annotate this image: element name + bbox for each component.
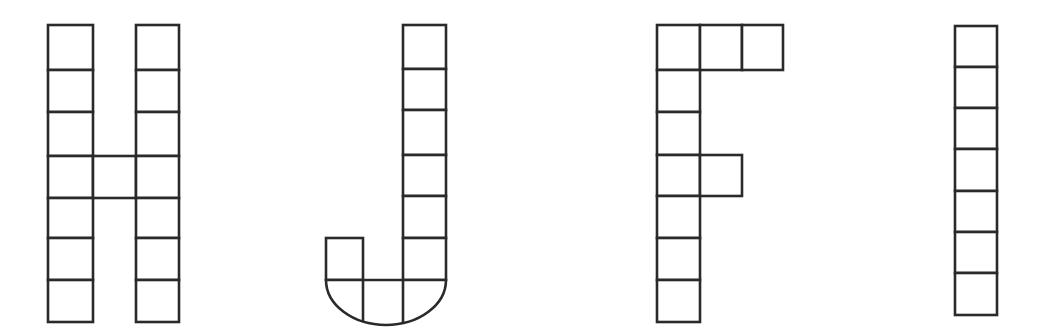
grid-cell: [700, 155, 742, 196]
grid-cell: [955, 191, 997, 232]
grid-cell: [136, 238, 179, 280]
grid-cell: [657, 196, 700, 238]
grid-cell: [955, 67, 997, 108]
grid-cell: [403, 110, 446, 155]
grid-cell: [955, 26, 997, 67]
grid-cell: [48, 25, 93, 70]
grid-cell: [48, 280, 93, 322]
grid-cell: [136, 25, 179, 70]
grid-cell: [48, 70, 93, 112]
letter-f-grid: [657, 25, 783, 322]
letter-h-grid: [48, 25, 179, 322]
grid-cell: [93, 156, 136, 198]
grid-cell: [403, 69, 446, 110]
grid-cell: [955, 108, 997, 149]
letter-i-grid: [955, 26, 997, 315]
grid-cell: [657, 25, 700, 70]
grid-cell: [403, 238, 446, 280]
grid-cell: [657, 238, 700, 280]
grid-cell: [955, 273, 997, 315]
grid-cell: [136, 198, 179, 238]
grid-cell: [955, 232, 997, 273]
grid-cell: [326, 238, 363, 280]
j-curved-base: [326, 280, 446, 325]
grid-cell: [657, 70, 700, 112]
grid-cell: [742, 25, 783, 70]
grid-cell: [136, 112, 179, 156]
grid-cell: [48, 238, 93, 280]
grid-cell: [403, 155, 446, 196]
grid-cell: [403, 196, 446, 238]
letter-j-grid: [326, 25, 446, 325]
grid-cell: [657, 112, 700, 155]
grid-cell: [48, 156, 93, 198]
grid-cell: [955, 149, 997, 191]
grid-cell: [700, 25, 742, 70]
grid-cell: [136, 156, 179, 198]
grid-cell: [136, 280, 179, 322]
grid-cell: [403, 25, 446, 69]
grid-cell: [48, 198, 93, 238]
grid-cell: [48, 112, 93, 156]
grid-cell: [136, 70, 179, 112]
grid-cell: [657, 155, 700, 196]
letter-grid-diagram: [0, 0, 1046, 334]
grid-cell: [657, 280, 700, 322]
